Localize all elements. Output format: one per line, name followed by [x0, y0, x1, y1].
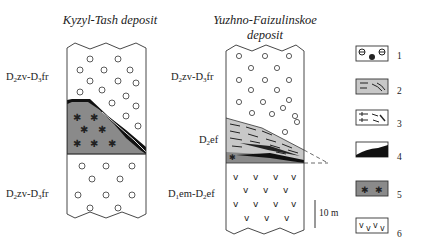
legend-box-2: [356, 79, 388, 94]
legend-box-1: [356, 46, 388, 61]
svg-text:✱: ✱: [73, 112, 81, 123]
unit-label-yuzhno-lower: D1em-D2ef: [168, 188, 215, 201]
scale-bar-label: 10 m: [319, 208, 338, 218]
svg-text:v: v: [243, 185, 249, 195]
svg-text:v: v: [291, 172, 297, 182]
pinch-out-dashed: [304, 150, 328, 163]
svg-text:✱: ✱: [73, 138, 81, 149]
kyzyl-tash-column: ✱✱ ✱✱ ✱✱✱: [60, 40, 150, 225]
unit-label-kyzyl-lower: D2zv-D3fr: [6, 188, 49, 201]
svg-text:v: v: [291, 199, 297, 209]
legend-num-4: 4: [397, 152, 402, 162]
yuzhno-column: ✱ vvvv vvv vvvv vvv: [220, 40, 310, 240]
svg-text:v: v: [284, 213, 290, 223]
svg-text:v: v: [373, 221, 378, 230]
legend-box-4: [356, 142, 388, 157]
legend-num-1: 1: [397, 51, 402, 61]
svg-text:v: v: [253, 199, 259, 209]
svg-text:✱: ✱: [375, 185, 383, 195]
svg-text:v: v: [233, 172, 239, 182]
legend-box-3: [356, 110, 388, 125]
svg-text:v: v: [233, 199, 239, 209]
svg-text:✱: ✱: [90, 112, 98, 123]
legend-num-5: 5: [397, 190, 402, 200]
svg-text:v: v: [359, 221, 364, 230]
svg-text:v: v: [380, 224, 385, 233]
unit-label-yuzhno-upper: D2zv-D3fr: [171, 71, 214, 84]
svg-text:✱: ✱: [90, 138, 98, 149]
unit-label-yuzhno-middle: D2ef: [199, 134, 218, 147]
legend-box-5: ✱ ✱: [356, 181, 388, 196]
svg-text:v: v: [273, 172, 279, 182]
stratigraphic-diagram: ✱✱ ✱✱ ✱✱✱: [0, 0, 421, 247]
svg-text:v: v: [283, 185, 289, 195]
svg-text:✱: ✱: [98, 124, 106, 135]
svg-text:v: v: [253, 172, 259, 182]
svg-text:v: v: [366, 224, 371, 233]
legend-box-6: v v v v: [356, 218, 388, 233]
svg-text:✱: ✱: [361, 185, 369, 195]
svg-text:v: v: [264, 213, 270, 223]
legend-num-6: 6: [397, 229, 402, 239]
legend-num-2: 2: [397, 86, 402, 96]
svg-text:✱: ✱: [229, 153, 236, 162]
legend-num-3: 3: [397, 119, 402, 129]
svg-text:✱: ✱: [108, 138, 116, 149]
svg-text:v: v: [273, 199, 279, 209]
svg-text:v: v: [244, 213, 250, 223]
unit-label-kyzyl-upper: D2zv-D3fr: [6, 71, 49, 84]
svg-text:✱: ✱: [80, 124, 88, 135]
svg-text:v: v: [263, 185, 269, 195]
